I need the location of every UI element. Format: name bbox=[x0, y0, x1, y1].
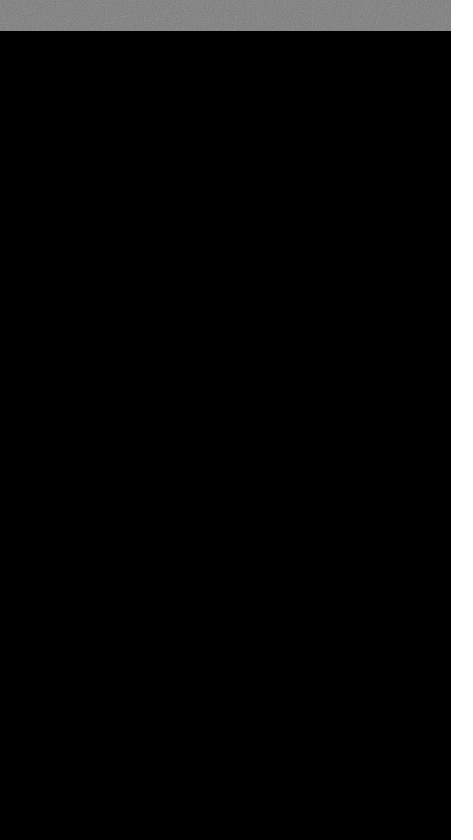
right-margin-strip bbox=[451, 0, 473, 840]
image-canvas bbox=[0, 31, 451, 840]
header-noise bbox=[0, 0, 451, 31]
capsid-image bbox=[0, 31, 451, 840]
header-band bbox=[0, 0, 451, 31]
